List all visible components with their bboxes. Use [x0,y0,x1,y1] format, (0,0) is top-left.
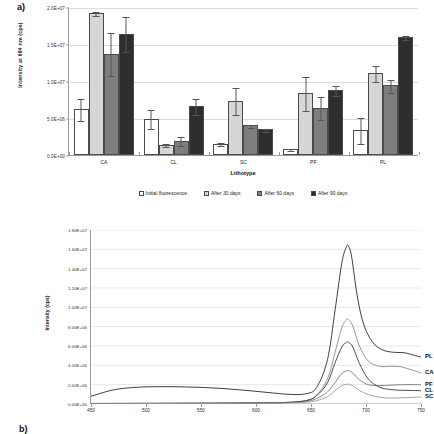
panel-b-curve-label-sc: SC [425,393,433,399]
panel-a-error-cap-bottom [372,82,379,83]
panel-a-error-bar [360,118,361,145]
panel-a-bar-slot [89,8,104,155]
panel-a-error-cap-bottom [78,121,85,122]
panel-a-bar-chart: a) Intensity at 684 nm (cps) 0.0E+005.0E… [0,0,432,210]
panel-a-y-tick-label: 1.0E+07 [47,80,65,85]
panel-a-bar-slot [383,8,398,155]
panel-a-y-tick-label: 5.0E+06 [47,117,65,122]
panel-b-x-tick-mark [91,404,92,407]
panel-a-legend-item[interactable]: After 90 days [311,190,347,196]
panel-b-y-tick-label: 4.00E+06 [68,363,87,368]
panel-a-legend-item[interactable]: After 30 days [204,190,240,196]
panel-a-legend-swatch [311,191,316,196]
panel-a-x-tick-label: PL [380,159,386,165]
panel-b-curve[interactable] [91,245,421,396]
panel-a-legend-label: After 60 days [264,190,293,196]
panel-a-error-cap-bottom [217,146,224,147]
panel-a-y-tick-label: 2.0E+07 [47,6,65,11]
panel-a-error-cap-top [372,66,379,67]
panel-a-bar[interactable] [368,73,383,155]
panel-a-error-cap-top [247,125,254,126]
panel-a-error-bar [111,33,112,76]
panel-a-bar[interactable] [89,13,104,155]
panel-b-x-tick-mark [146,404,147,407]
panel-a-bar-slot [313,8,328,155]
panel-a-legend-swatch [257,191,262,196]
panel-a-bar-slot [368,8,383,155]
panel-a-legend-item[interactable]: After 60 days [257,190,293,196]
panel-b-y-tick-label: 1.80E+07 [68,228,87,233]
panel-a-x-tick-label: SC [240,159,247,165]
panel-a-bar-slot [119,8,134,155]
panel-a-error-cap-bottom [178,146,185,147]
panel-b-svg [91,230,421,404]
panel-b-x-tick-mark [366,404,367,407]
panel-a-y-tick-label: 0.0E+00 [47,154,65,159]
panel-a-error-cap-bottom [302,111,309,112]
panel-a-error-cap-top [387,80,394,81]
panel-a-error-cap-bottom [317,120,324,121]
panel-a-error-cap-top [262,129,269,130]
panel-a-error-cap-top [402,36,409,37]
panel-a-bar-slot [353,8,368,155]
panel-a-x-axis-title: Lithotype [68,170,418,176]
panel-a-bar-slot [243,8,258,155]
panel-a-bar-group: PL [348,8,418,155]
panel-b-x-tick-mark [311,404,312,407]
panel-a-bar[interactable] [258,129,273,155]
panel-a-error-cap-bottom [332,96,339,97]
panel-a-bar[interactable] [328,90,343,155]
panel-b-x-tick-label: 700 [362,408,370,413]
panel-a-error-bar [320,97,321,121]
panel-a-error-cap-top [148,110,155,111]
panel-b-y-tick-label: 1.00E+07 [68,305,87,310]
panel-a-bar[interactable] [398,37,413,155]
panel-a-error-cap-top [217,143,224,144]
panel-a-bar[interactable] [383,85,398,155]
panel-b-x-tick-label: 600 [252,408,260,413]
panel-a-error-bar [335,86,336,96]
panel-a-legend: Initial fluorescenceAfter 30 daysAfter 6… [68,190,418,196]
panel-a-legend-label: After 90 days [318,190,347,196]
panel-a-legend-label: After 30 days [211,190,240,196]
panel-b-y-tick-label: 8.00E+06 [68,324,87,329]
panel-a-y-tick-label: 1.5E+07 [47,43,65,48]
panel-a-error-cap-bottom [287,151,294,152]
panel-a-error-bar [305,77,306,111]
panel-a-error-cap-bottom [163,147,170,148]
panel-a-bar-group: SC [209,8,279,155]
panel-a-bar[interactable] [243,125,258,155]
panel-a-error-cap-top [123,17,130,18]
panel-a-y-axis-title: Intensity at 684 nm (cps) [17,0,23,110]
panel-a-error-cap-bottom [148,129,155,130]
panel-a-error-cap-top [357,118,364,119]
panel-b-y-tick-label: 1.20E+07 [68,286,87,291]
panel-a-legend-swatch [204,191,209,196]
panel-a-legend-item[interactable]: Initial fluorescence [139,190,187,196]
panel-a-bar-slot [228,8,243,155]
panel-b-x-tick-mark [256,404,257,407]
panel-a-bar-group: PF [278,8,348,155]
panel-a-error-cap-bottom [247,128,254,129]
panel-a-error-cap-bottom [262,132,269,133]
panel-a-bar-slot [74,8,89,155]
panel-b-y-tick-label: 1.60E+07 [68,247,87,252]
panel-a-error-cap-bottom [123,52,130,53]
panel-a-x-tick-label: PF [310,159,316,165]
panel-b-y-tick-label: 1.40E+07 [68,266,87,271]
panel-b-curve[interactable] [91,342,421,404]
panel-a-bar-slot [174,8,189,155]
panel-a-error-cap-bottom [402,40,409,41]
panel-a-x-separator [139,152,140,155]
panel-a-error-cap-top [287,149,294,150]
panel-b-x-tick-label: 550 [197,408,205,413]
panel-a-bar-slot [159,8,174,155]
panel-a-bar-slot [298,8,313,155]
panel-a-bar-group: CA [69,8,139,155]
panel-b-y-tick-label: 6.00E+06 [68,344,87,349]
panel-a-error-cap-bottom [357,144,364,145]
panel-b-curve[interactable] [91,319,421,404]
panel-a-error-bar [151,110,152,129]
panel-a-error-cap-top [332,86,339,87]
